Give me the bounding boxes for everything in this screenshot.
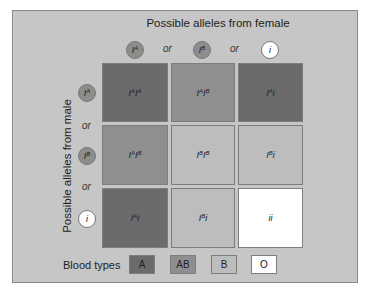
legend-swatch-A: A <box>129 255 155 274</box>
genotype-cell-IAIA: IAIA <box>102 63 168 122</box>
or-separator: or <box>82 181 91 192</box>
female-allele-IA: IA <box>126 41 144 59</box>
genotype-cell-IBIB: IBIB <box>171 125 235 185</box>
genotype-cell-IBi: IBi <box>171 188 235 248</box>
genotype-cell-IAIB: IAIB <box>102 125 168 185</box>
or-separator: or <box>163 43 172 54</box>
legend-label: Blood types <box>63 259 120 271</box>
genotype-cell-IAi: IAi <box>238 63 303 122</box>
or-separator: or <box>82 120 91 131</box>
male-allele-i: i <box>78 210 96 228</box>
legend-swatch-B: B <box>211 255 237 274</box>
genotype-cell-IAi: IAi <box>102 188 168 248</box>
genotype-cell-ii: ii <box>238 188 303 248</box>
male-allele-IB: IB <box>78 147 96 165</box>
male-allele-IA: IA <box>78 84 96 102</box>
legend-swatch-O: O <box>251 255 277 274</box>
female-allele-IB: IB <box>193 41 211 59</box>
female-allele-i: i <box>261 41 279 59</box>
female-alleles-title: Possible alleles from female <box>103 17 333 29</box>
punnett-square-panel: Possible alleles from female Possible al… <box>12 10 358 283</box>
genotype-cell-IAIB: IAIB <box>171 63 235 122</box>
genotype-cell-IBi: IBi <box>238 125 303 185</box>
male-alleles-title: Possible alleles from male <box>61 76 73 256</box>
legend-swatch-AB: AB <box>170 255 196 274</box>
or-separator: or <box>230 43 239 54</box>
